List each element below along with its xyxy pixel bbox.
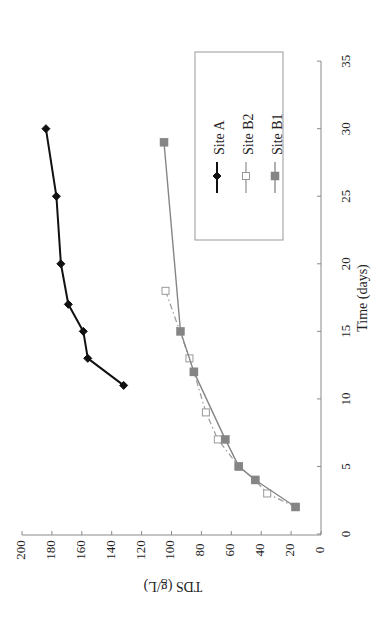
data-point bbox=[57, 260, 65, 268]
time-tick-label: 15 bbox=[338, 325, 353, 338]
data-point bbox=[42, 125, 50, 133]
data-point bbox=[176, 327, 184, 335]
data-point bbox=[292, 503, 300, 511]
time-axis-title: Time (days) bbox=[355, 264, 371, 332]
legend-marker bbox=[243, 173, 250, 180]
time-tick-label: 30 bbox=[338, 122, 353, 135]
series-site-b2 bbox=[162, 287, 299, 510]
data-point bbox=[160, 138, 168, 146]
tds-tick-label: 140 bbox=[103, 540, 118, 560]
legend-marker bbox=[271, 172, 279, 180]
legend: Site ASite B2Site B1 bbox=[195, 52, 285, 240]
tds-tick-label: 20 bbox=[282, 544, 297, 557]
data-point bbox=[214, 436, 221, 443]
data-point bbox=[264, 490, 271, 497]
tds-tick-label: 60 bbox=[222, 544, 237, 557]
data-point bbox=[162, 287, 169, 294]
tds-chart: 05101520253035Time (days)020406080100120… bbox=[0, 0, 384, 623]
data-point bbox=[235, 462, 243, 470]
legend-label: Site A bbox=[212, 119, 227, 155]
tds-tick-label: 100 bbox=[162, 540, 177, 560]
tds-axis-title: TDS (g/L) bbox=[143, 578, 202, 594]
axes: 05101520253035Time (days)020406080100120… bbox=[13, 55, 371, 594]
data-point bbox=[251, 476, 259, 484]
time-tick-label: 0 bbox=[338, 531, 353, 538]
data-point bbox=[190, 368, 198, 376]
time-tick-label: 35 bbox=[338, 55, 353, 68]
legend-label: Site B2 bbox=[241, 113, 256, 155]
data-point bbox=[202, 409, 209, 416]
series-line bbox=[46, 129, 124, 386]
time-tick-label: 25 bbox=[338, 190, 353, 203]
legend-label: Site B1 bbox=[270, 113, 285, 155]
tds-tick-label: 160 bbox=[73, 540, 88, 560]
time-tick-label: 10 bbox=[338, 392, 353, 405]
tds-tick-label: 120 bbox=[133, 540, 148, 560]
tds-tick-label: 80 bbox=[192, 544, 207, 557]
data-point bbox=[221, 435, 229, 443]
tds-tick-label: 180 bbox=[43, 540, 58, 560]
series-site-a bbox=[42, 125, 128, 390]
data-point bbox=[52, 192, 60, 200]
data-point bbox=[79, 327, 87, 335]
tds-tick-label: 40 bbox=[252, 544, 267, 557]
time-tick-label: 20 bbox=[338, 257, 353, 270]
data-point bbox=[64, 300, 72, 308]
tds-tick-label: 0 bbox=[312, 547, 327, 554]
series-line bbox=[166, 291, 296, 507]
time-tick-label: 5 bbox=[338, 463, 353, 470]
tds-tick-label: 200 bbox=[13, 540, 28, 560]
